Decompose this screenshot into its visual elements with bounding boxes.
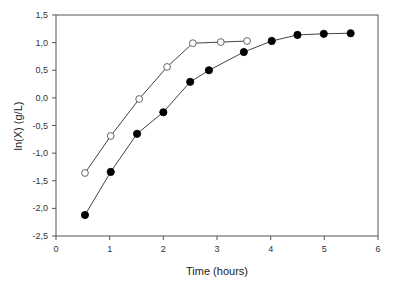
y-tick-label: 0,5	[35, 65, 48, 75]
y-tick-label: -2,0	[32, 203, 48, 213]
filled-data-point	[107, 168, 114, 175]
x-tick-label: 1	[107, 244, 112, 254]
y-tick-label: 1,0	[35, 38, 48, 48]
filled-data-point	[320, 30, 327, 37]
filled-data-point	[240, 48, 247, 55]
filled-data-point	[347, 30, 354, 37]
filled-data-point	[205, 67, 212, 74]
y-tick-label: -2,5	[32, 231, 48, 241]
x-tick-label: 5	[322, 244, 327, 254]
x-axis-title: Time (hours)	[186, 265, 248, 277]
filled-data-point	[187, 78, 194, 85]
series-line	[85, 41, 247, 173]
y-tick-label: -1,0	[32, 148, 48, 158]
plot-border	[56, 15, 378, 236]
y-tick-label: 0,0	[35, 93, 48, 103]
y-axis: -2,5-2,0-1,5-1,0-0,50,00,51,01,5	[32, 10, 56, 241]
open-data-point	[164, 64, 171, 71]
open-data-point	[189, 40, 196, 47]
filled-data-point	[268, 37, 275, 44]
x-tick-label: 2	[161, 244, 166, 254]
series-open-circle	[82, 38, 251, 177]
x-tick-label: 6	[375, 244, 380, 254]
open-data-point	[107, 133, 114, 140]
filled-data-point	[81, 211, 88, 218]
open-data-point	[244, 38, 251, 45]
open-data-point	[217, 39, 224, 46]
open-data-point	[136, 96, 143, 103]
x-tick-label: 4	[268, 244, 273, 254]
plot-frame	[56, 15, 378, 236]
series-layer	[81, 30, 354, 219]
filled-data-point	[294, 31, 301, 38]
y-axis-title: ln(X) (g/L)	[12, 102, 24, 151]
x-tick-label: 0	[53, 244, 58, 254]
x-axis: 0123456	[53, 236, 380, 254]
y-tick-label: -1,5	[32, 176, 48, 186]
y-tick-label: -0,5	[32, 121, 48, 131]
series-filled-circle	[81, 30, 354, 219]
filled-data-point	[160, 109, 167, 116]
filled-data-point	[133, 130, 140, 137]
open-data-point	[82, 170, 89, 177]
y-tick-label: 1,5	[35, 10, 48, 20]
series-line	[85, 33, 351, 215]
x-tick-label: 3	[214, 244, 219, 254]
chart: 0123456 -2,5-2,0-1,5-1,0-0,50,00,51,01,5…	[0, 0, 395, 288]
